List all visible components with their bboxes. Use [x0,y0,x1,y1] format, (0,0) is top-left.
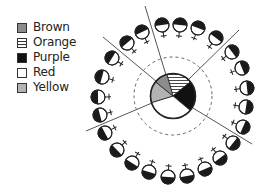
legend-item-yellow: Yellow [17,80,76,95]
pie-chart [151,74,196,119]
female-symbol-icon [233,80,254,96]
female-symbol-icon [107,136,131,160]
female-symbol-icon [193,154,214,178]
swatch-icon-orange [17,38,27,48]
swatch-icon-purple [17,53,27,63]
female-symbol-icon [102,48,126,70]
female-symbol-icon [122,148,144,172]
legend-item-purple: Purple [17,50,76,65]
legend: Brown Orange Purple Red Yellow [17,20,76,95]
legend-item-brown: Brown [17,20,76,35]
swatch-icon-yellow [17,83,27,93]
legend-label: Orange [33,35,76,50]
female-symbol-icon [96,121,120,143]
legend-label: Brown [33,20,70,35]
legend-item-red: Red [17,65,76,80]
legend-label: Yellow [33,80,69,95]
female-symbol-icon [172,17,188,38]
female-symbol-icon [140,157,159,180]
swatch-icon-brown [17,23,27,33]
female-symbol-icon [187,19,207,43]
female-symbol-icon [93,68,116,87]
female-symbol-icon [154,17,171,39]
female-symbol-icon [178,162,195,184]
female-symbol-icon [227,59,251,79]
female-symbol-icon [228,115,252,136]
legend-label: Purple [33,50,70,65]
swatch-icon-red [17,68,27,78]
female-symbol-icon [232,98,254,115]
female-symbol-icon [91,90,111,104]
legend-item-orange: Orange [17,35,76,50]
female-symbol-icon [161,164,176,185]
legend-label: Red [33,65,55,80]
divider-line [145,6,166,75]
female-symbol-icon [203,28,226,52]
